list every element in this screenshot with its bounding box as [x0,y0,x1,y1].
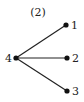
node-4 [13,55,18,60]
star-graph-diagram: (2) 4 1 2 3 [0,0,84,102]
node-1 [63,22,68,27]
node-label-4: 4 [5,52,12,65]
node-label-1: 1 [71,19,78,32]
node-3 [64,88,69,93]
node-label-2: 2 [72,52,79,65]
node-label-3: 3 [72,85,79,98]
node-2 [64,55,69,60]
edge-4-1 [16,25,66,58]
edge-4-3 [16,58,67,91]
diagram-title: (2) [30,6,46,19]
